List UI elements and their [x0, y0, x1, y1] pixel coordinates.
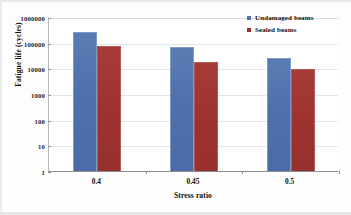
x-axis-tick-label: 0.4	[92, 177, 101, 186]
bar-sealed-beams-0.45	[194, 62, 218, 171]
y-axis-tick-label: 1	[42, 169, 46, 176]
y-axis-tick-label: 1000	[31, 92, 45, 99]
legend-label: Undamaged beams	[255, 14, 313, 22]
y-axis-tick-label: 100000	[24, 40, 45, 47]
bar-sealed-beams-0.4	[97, 46, 121, 171]
x-axis-tick-label: 0.5	[285, 177, 294, 186]
y-axis-tick-label: 1000000	[21, 15, 45, 22]
y-axis-tick-mark	[48, 69, 51, 70]
y-axis-tick-mark	[48, 146, 51, 147]
x-axis-tick-label: 0.45	[187, 177, 200, 186]
x-axis-title: Stress ratio	[48, 191, 338, 200]
scan-edge-top	[0, 0, 351, 2]
y-axis-tick-label: 10000	[28, 66, 45, 73]
legend-label: Sealed beams	[255, 26, 296, 34]
bar-sealed-beams-0.5	[291, 69, 315, 171]
y-axis-tick-label: 100	[35, 117, 46, 124]
bar-undamaged-beams-0.45	[170, 47, 194, 171]
y-axis-tick-labels: 1000000100000100001000100101	[0, 18, 45, 172]
y-axis-tick-mark	[48, 18, 51, 19]
legend-swatch-icon	[247, 16, 251, 20]
legend-swatch-icon	[247, 28, 251, 32]
y-axis-tick-mark	[48, 121, 51, 122]
x-axis-tick-mark	[146, 171, 147, 174]
x-axis-tick-mark	[242, 171, 243, 174]
x-axis-tick-mark	[339, 171, 340, 174]
fatigue-life-bar-chart: Fatigue life (cycles) 100000010000010000…	[0, 0, 351, 215]
legend-entry: Sealed beams	[247, 25, 347, 34]
legend-entry: Undamaged beams	[247, 13, 347, 22]
chart-legend: Undamaged beamsSealed beams	[247, 13, 347, 37]
y-axis-tick-mark	[48, 95, 51, 96]
y-axis-tick-label: 10	[38, 143, 45, 150]
scan-edge-bottom	[0, 212, 351, 215]
bar-undamaged-beams-0.5	[267, 58, 291, 171]
bar-undamaged-beams-0.4	[73, 32, 97, 171]
y-axis-tick-mark	[48, 44, 51, 45]
y-axis-tick-mark	[48, 172, 51, 173]
plot-area	[48, 18, 338, 172]
